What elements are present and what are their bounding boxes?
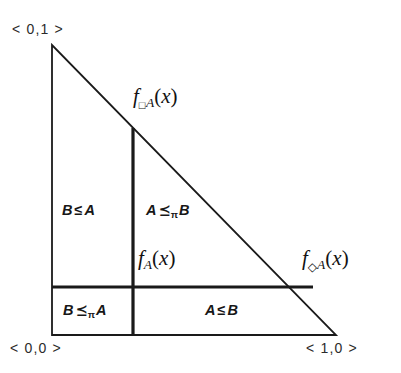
corner-label-bottom-left: < 0,0 > xyxy=(10,341,62,355)
region-right-operand: A xyxy=(96,302,106,318)
region-relation-symbol: ⪯ xyxy=(158,203,170,218)
region-right-operand: B xyxy=(227,302,237,318)
figure-canvas: < 0,1 > < 0,0 > < 1,0 > B≤A A⪯πB B⪯πA A≤… xyxy=(0,0,401,373)
function-argument: x xyxy=(332,246,341,270)
region-right-operand: B xyxy=(179,202,189,218)
region-label-lower-left: B⪯πA xyxy=(63,303,106,320)
box-operator-icon: □ xyxy=(139,99,146,111)
function-label-box: f□A(x) xyxy=(133,86,178,111)
region-right-operand: A xyxy=(84,202,94,218)
region-label-lower-right: A≤B xyxy=(205,303,238,318)
region-relation-symbol: ⪯ xyxy=(75,303,87,318)
close-paren: ) xyxy=(171,84,178,108)
region-relation-subscript: π xyxy=(88,309,95,320)
region-left-operand: B xyxy=(63,302,73,318)
function-label-plain: fA(x) xyxy=(138,248,175,272)
function-label-diamond: f◇A(x) xyxy=(302,248,349,273)
region-label-upper-right: A⪯πB xyxy=(146,203,189,220)
function-subscript-base: A xyxy=(146,95,154,110)
region-relation-subscript: π xyxy=(171,209,178,220)
diamond-operator-icon: ◇ xyxy=(308,260,317,274)
function-subscript: A xyxy=(144,258,152,272)
region-left-operand: A xyxy=(146,202,156,218)
region-left-operand: A xyxy=(205,302,215,318)
triangle-diagram xyxy=(0,0,401,373)
function-subscript: □A xyxy=(139,96,154,111)
corner-label-top-left: < 0,1 > xyxy=(12,22,64,36)
region-relation-symbol: ≤ xyxy=(74,203,82,218)
close-paren: ) xyxy=(342,246,349,270)
function-argument: x xyxy=(161,84,170,108)
region-left-operand: B xyxy=(62,202,72,218)
region-relation-symbol: ≤ xyxy=(217,303,225,318)
corner-label-bottom-right: < 1,0 > xyxy=(306,341,358,355)
function-subscript: ◇A xyxy=(308,258,325,273)
triangle-outline xyxy=(52,45,336,335)
region-label-upper-left: B≤A xyxy=(62,203,95,218)
close-paren: ) xyxy=(168,246,175,270)
function-subscript-base: A xyxy=(144,257,152,272)
